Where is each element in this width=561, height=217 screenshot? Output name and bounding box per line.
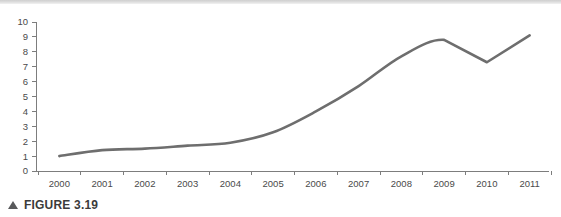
series-line	[59, 35, 529, 156]
x-tick-label: 2000	[49, 178, 70, 189]
data-series-group	[59, 35, 529, 156]
x-tick-label: 2001	[92, 178, 113, 189]
x-tick-label: 2005	[263, 178, 284, 189]
x-tick-label: 2003	[177, 178, 198, 189]
y-tick-label: 9	[23, 31, 28, 42]
chart-svg: 012345678910 200020012002200320042005200…	[0, 8, 561, 196]
x-tick-label: 2006	[305, 178, 326, 189]
top-divider-rule	[0, 0, 561, 4]
x-tick-label: 2009	[434, 178, 455, 189]
y-tick-label: 5	[23, 91, 28, 102]
y-tick-label: 2	[23, 136, 28, 147]
figure-caption-label: FIGURE 3.19	[24, 198, 98, 212]
y-tick-label: 1	[23, 151, 28, 162]
y-tick-label: 3	[23, 121, 28, 132]
y-axis: 012345678910	[17, 16, 36, 176]
y-tick-label: 7	[23, 61, 28, 72]
y-tick-label: 4	[23, 106, 28, 117]
figure-caption: FIGURE 3.19	[8, 198, 98, 212]
figure-container: 012345678910 200020012002200320042005200…	[0, 0, 561, 217]
x-tick-label: 2011	[519, 178, 539, 189]
y-tick-label: 10	[17, 16, 28, 27]
x-tick-label: 2010	[476, 178, 497, 189]
x-tick-label: 2004	[220, 178, 241, 189]
x-axis: 2000200120022003200420052006200720082009…	[36, 171, 551, 189]
x-tick-label: 2008	[391, 178, 412, 189]
x-tick-label: 2007	[348, 178, 369, 189]
line-chart: 012345678910 200020012002200320042005200…	[0, 8, 561, 196]
y-tick-label: 6	[23, 76, 28, 87]
x-tick-label: 2002	[134, 178, 155, 189]
y-tick-label: 0	[23, 165, 28, 176]
triangle-up-icon	[8, 201, 18, 209]
y-tick-label: 8	[23, 46, 28, 57]
